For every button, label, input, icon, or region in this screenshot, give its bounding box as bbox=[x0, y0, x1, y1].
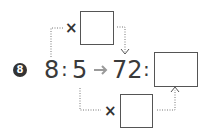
answer-box-right-ratio-b[interactable] bbox=[154, 52, 198, 87]
answer-box-bottom-multiplier[interactable] bbox=[120, 94, 153, 128]
times-icon-top: × bbox=[65, 21, 78, 36]
left-ratio-b: 5 bbox=[72, 58, 87, 82]
answer-box-top-multiplier[interactable] bbox=[80, 11, 114, 45]
colon-right: : bbox=[143, 57, 150, 81]
right-ratio-a: 72 bbox=[112, 58, 143, 82]
right-arrow-icon bbox=[94, 66, 106, 74]
colon-left: : bbox=[61, 57, 68, 81]
times-icon-bottom: × bbox=[104, 104, 117, 119]
left-ratio-a: 8 bbox=[44, 58, 59, 82]
problem-number-badge: 8 bbox=[13, 63, 27, 77]
